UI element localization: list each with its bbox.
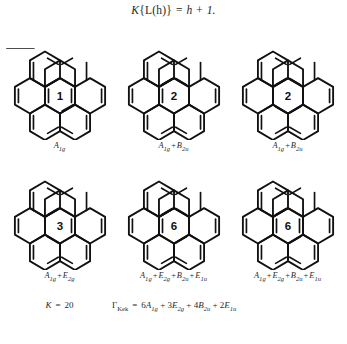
term-letter-3: B2u xyxy=(198,300,210,310)
structures-row-2: 3 A1g+E2g xyxy=(0,178,347,288)
equation-equals: = xyxy=(176,4,183,16)
coronene-structure-3: 2 xyxy=(234,48,342,140)
sym-term-E2g: E2g xyxy=(158,271,170,280)
equation-lhs-body: {L(h)} xyxy=(139,4,172,16)
structure-cell-4: 3 A1g+E2g xyxy=(2,178,117,282)
coronene-structure-6: 6 xyxy=(234,178,342,270)
sym-term-A: A1g xyxy=(272,141,284,150)
structure-count-5: 6 xyxy=(170,220,176,232)
structures-grid: 1 A1g xyxy=(0,48,347,288)
sym-term-E1u: E1u xyxy=(309,271,321,280)
k-symbol: K xyxy=(45,300,51,310)
sym-plus: + xyxy=(170,141,177,150)
term-letter-2: E2g xyxy=(172,300,184,310)
structure-symmetry-2: A1g+B2u xyxy=(116,141,231,152)
top-equation: K{L(h)}=h + 1. xyxy=(0,4,347,16)
k-equals: = xyxy=(55,300,60,310)
structure-symmetry-5: A1g+E2g+B2u+E1u xyxy=(116,271,231,282)
structure-count-2: 2 xyxy=(170,90,176,102)
structure-count-6: 6 xyxy=(284,220,290,232)
structure-cell-2: 2 A1g+B2u xyxy=(116,48,231,152)
structure-count-1: 1 xyxy=(56,90,63,102)
sym-plus: + xyxy=(56,271,63,280)
sym-term-E1u: E1u xyxy=(195,271,207,280)
sym-term-B: B2u xyxy=(177,141,189,150)
equation-rhs: h + 1. xyxy=(187,4,216,16)
term-letter-4: E1u xyxy=(224,300,236,310)
structure-cell-5: 6 A1g+E2g+B2u+E1u xyxy=(116,178,231,282)
structure-symmetry-6: A1g+E2g+B2u+E1u xyxy=(230,271,345,282)
coronene-structure-1: 1 xyxy=(6,48,114,140)
gamma-plus: + xyxy=(210,300,220,310)
coronene-structure-4: 3 xyxy=(6,178,114,270)
structure-count-3: 2 xyxy=(284,90,290,102)
sym-term-B2u: B2u xyxy=(177,271,189,280)
gamma-kek-expression: ΓKek=6A1g + 3E2g + 4B2u + 2E1u xyxy=(112,300,236,312)
structure-cell-6: 6 A1g+E2g+B2u+E1u xyxy=(230,178,345,282)
sym-term-A: A1g xyxy=(44,271,56,280)
structure-cell-1: 1 A1g xyxy=(2,48,117,152)
sym-plus: + xyxy=(170,271,177,280)
structure-count-4: 3 xyxy=(56,220,62,232)
sym-term-B2u: B2u xyxy=(291,271,303,280)
gamma-plus: + xyxy=(184,300,194,310)
structure-symmetry-4: A1g+E2g xyxy=(2,271,117,282)
structure-cell-3: 2 A1g+B2u xyxy=(230,48,345,152)
summary-line: K=20 ΓKek=6A1g + 3E2g + 4B2u + 2E1u xyxy=(0,300,347,322)
term-letter-1: A1g xyxy=(146,300,158,310)
structure-symmetry-1: A1g xyxy=(2,141,117,152)
sym-term-A: A1g xyxy=(54,141,66,150)
sym-term-B: B2u xyxy=(291,141,303,150)
gamma-equals: = xyxy=(132,300,137,310)
k-value: 20 xyxy=(65,300,74,310)
gamma-subscript: Kek xyxy=(117,305,128,312)
k-total: K=20 xyxy=(2,300,117,310)
sym-term-A: A1g xyxy=(158,141,170,150)
sym-plus: + xyxy=(284,141,291,150)
sym-term-E2g: E2g xyxy=(272,271,284,280)
sym-plus: + xyxy=(284,271,291,280)
coronene-structure-5: 6 xyxy=(120,178,228,270)
coronene-structure-2: 2 xyxy=(120,48,228,140)
structure-symmetry-3: A1g+B2u xyxy=(230,141,345,152)
structures-row-1: 1 A1g xyxy=(0,48,347,158)
sym-term-E: E2g xyxy=(63,271,75,280)
sym-term-A: A1g xyxy=(140,271,152,280)
sym-term-A: A1g xyxy=(254,271,266,280)
figure-page: K{L(h)}=h + 1. xyxy=(0,0,347,344)
